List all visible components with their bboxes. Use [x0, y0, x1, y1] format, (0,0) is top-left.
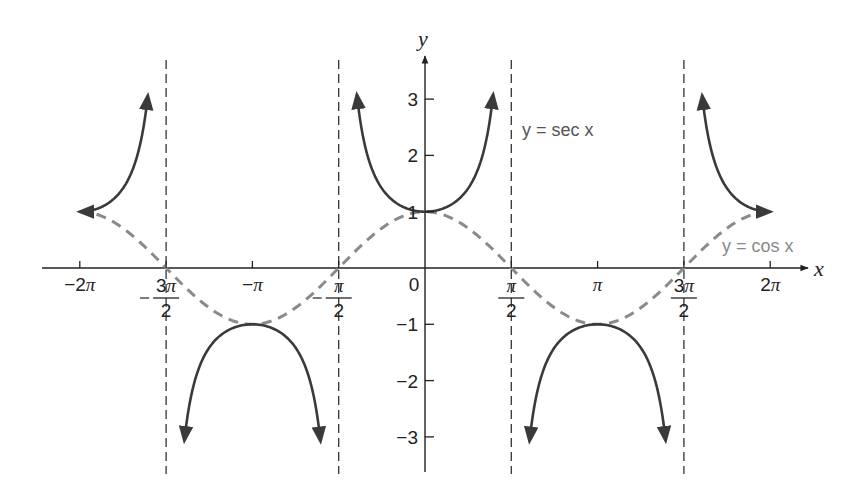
- svg-text:3π: 3π: [674, 275, 695, 296]
- svg-text:−1: −1: [396, 314, 418, 335]
- axes: [42, 56, 808, 472]
- svg-text:π: π: [593, 274, 603, 295]
- svg-text:2: 2: [506, 300, 517, 321]
- svg-text:3: 3: [407, 89, 418, 110]
- secant-branch: [530, 324, 666, 441]
- svg-text:2: 2: [161, 300, 172, 321]
- svg-text:2: 2: [679, 300, 690, 321]
- svg-text:2: 2: [333, 300, 344, 321]
- secant-branch: [80, 96, 148, 212]
- secant-cosine-chart: −2π3π2−ππ20π2π3π22π321−1−2−3 x y y = sec…: [0, 0, 863, 499]
- svg-text:2π: 2π: [760, 274, 781, 295]
- secant-branch: [184, 324, 320, 441]
- svg-text:1: 1: [407, 202, 418, 223]
- cos-series-label: y = cos x: [722, 236, 794, 256]
- svg-text:π: π: [507, 275, 517, 296]
- svg-text:−2π: −2π: [64, 274, 96, 295]
- secant-branch: [702, 96, 770, 212]
- svg-text:π: π: [334, 275, 344, 296]
- x-axis-label: x: [813, 256, 824, 281]
- svg-text:2: 2: [407, 145, 418, 166]
- svg-text:3π: 3π: [156, 275, 177, 296]
- svg-text:−3: −3: [396, 427, 418, 448]
- sec-series-label: y = sec x: [522, 120, 594, 140]
- svg-text:−2: −2: [396, 371, 418, 392]
- svg-text:0: 0: [409, 274, 420, 295]
- svg-text:−π: −π: [242, 274, 263, 295]
- y-axis-label: y: [416, 26, 428, 51]
